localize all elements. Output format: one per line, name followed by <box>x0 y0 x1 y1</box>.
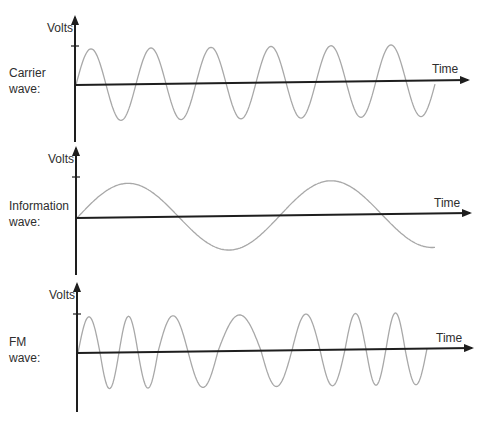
carrier-time-label: Time <box>432 62 458 77</box>
information-time-axis <box>76 213 470 218</box>
information-wave-label-line2: wave: <box>9 215 40 230</box>
carrier-wave-label-line1: Carrier <box>9 66 46 81</box>
fm-modulation-diagram <box>0 0 478 422</box>
fm-time-axis <box>77 348 472 353</box>
information-panel <box>72 148 470 275</box>
fm-wave-label-line2: wave: <box>9 351 40 366</box>
information-wave-label-line1: Information <box>9 199 69 214</box>
fm-wave-label-line1: FM <box>9 335 26 350</box>
fm-panel <box>73 284 472 412</box>
carrier-panel <box>71 17 468 142</box>
carrier-wave-label-line2: wave: <box>9 82 40 97</box>
fm-volts-label: Volts <box>15 288 75 303</box>
information-volts-label: Volts <box>14 152 74 167</box>
information-time-label: Time <box>434 196 460 211</box>
fm-time-label: Time <box>436 331 462 346</box>
carrier-volts-label: Volts <box>13 21 73 36</box>
carrier-time-axis <box>75 80 468 85</box>
